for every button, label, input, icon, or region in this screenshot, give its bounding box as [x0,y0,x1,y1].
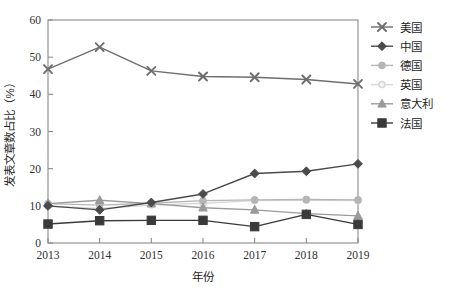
legend-item-中国[interactable]: 中国 [371,41,422,53]
data-point-marker [354,159,363,168]
x-tick-label: 2013 [37,249,60,261]
chart-legend: 美国中国德国英国意大利法国 [371,21,433,130]
y-tick-label: 40 [30,88,42,100]
y-tick-label: 10 [30,200,42,212]
legend-label: 美国 [400,21,422,34]
chart-container: 0102030405060 20132014201520162017201820… [0,0,449,291]
y-tick-label: 50 [30,51,42,63]
data-point-marker [303,196,310,203]
data-series-layer [44,43,363,231]
data-point-marker [251,196,258,203]
x-tick-label: 2014 [88,249,111,261]
data-point-marker [355,196,362,203]
data-point-marker [379,82,385,88]
x-axis-title: 年份 [192,270,215,283]
x-tick-label: 2018 [295,249,318,261]
legend-item-意大利[interactable]: 意大利 [371,97,433,110]
data-point-marker [96,43,104,51]
legend-item-英国[interactable]: 英国 [371,78,422,91]
legend-label: 英国 [400,78,422,91]
y-axis-title: 发表文章数占比（%） [3,77,16,186]
y-tick-label: 20 [30,163,42,175]
legend-label: 意大利 [400,97,433,110]
y-axis-tick-labels: 0102030405060 [30,14,42,249]
data-point-marker [250,169,259,178]
data-point-marker [250,222,258,230]
x-axis-ticks [48,238,358,243]
data-point-marker [199,190,208,199]
x-tick-label: 2017 [243,249,266,261]
data-point-marker [147,216,155,224]
data-point-marker [378,42,387,51]
y-tick-label: 60 [30,14,42,26]
line-chart: 0102030405060 20132014201520162017201820… [0,0,449,291]
legend-item-德国[interactable]: 德国 [371,59,422,72]
data-point-marker [199,216,207,224]
legend-item-法国[interactable]: 法国 [371,117,422,130]
data-point-marker [302,167,311,176]
data-point-marker [95,196,103,204]
x-tick-label: 2015 [140,249,163,261]
data-point-marker [302,210,310,218]
data-point-marker [95,217,103,225]
x-tick-label: 2016 [192,249,215,261]
y-tick-label: 30 [30,126,42,138]
x-axis-tick-labels: 2013201420152016201720182019 [37,249,370,261]
legend-label: 中国 [400,41,422,53]
data-point-marker [44,220,52,228]
legend-label: 德国 [400,59,422,72]
legend-label: 法国 [400,117,422,130]
x-tick-label: 2019 [347,249,370,261]
series-美国 [44,43,362,88]
series-法国 [44,210,362,231]
data-point-marker [378,119,386,127]
y-tick-label: 0 [35,237,41,249]
legend-item-美国[interactable]: 美国 [371,21,422,34]
data-point-marker [354,220,362,228]
data-point-marker [379,62,386,69]
